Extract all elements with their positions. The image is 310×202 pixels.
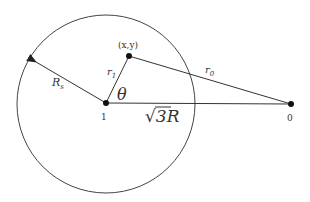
point-field-label: (x,y) xyxy=(118,40,138,50)
diagram-canvas: 1 (x,y) 0 Rs r1 r0 θ √3R xyxy=(0,0,310,202)
point-field xyxy=(126,53,132,59)
theta-label: θ xyxy=(117,85,127,104)
r0-label: r0 xyxy=(205,64,215,78)
r0-line xyxy=(129,56,291,104)
radius-arrow xyxy=(36,62,106,103)
radius-label: Rs xyxy=(51,76,64,91)
point-source xyxy=(288,101,294,107)
point-center-label: 1 xyxy=(101,112,107,122)
distance-line xyxy=(106,103,291,104)
point-center xyxy=(103,100,109,106)
r1-label: r1 xyxy=(107,66,116,80)
point-source-label: 0 xyxy=(287,113,293,123)
distance-label: √3R xyxy=(145,106,180,126)
diagram-svg: 1 (x,y) 0 Rs r1 r0 θ √3R xyxy=(0,0,310,202)
